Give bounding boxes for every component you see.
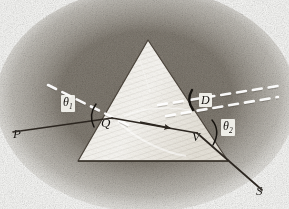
label-q: Q (101, 116, 110, 129)
figure-canvas (0, 0, 289, 209)
prism-refraction-figure: P Q V S D θ1 θ2 (0, 0, 289, 209)
label-s: S (256, 184, 263, 197)
theta2-subscript: 2 (229, 126, 233, 135)
label-theta2: θ2 (221, 119, 235, 136)
label-p: P (13, 127, 21, 140)
label-deviation-angle-d: D (199, 93, 212, 107)
label-v: V (192, 130, 200, 143)
label-theta1: θ1 (61, 95, 75, 112)
theta1-subscript: 1 (69, 102, 73, 111)
